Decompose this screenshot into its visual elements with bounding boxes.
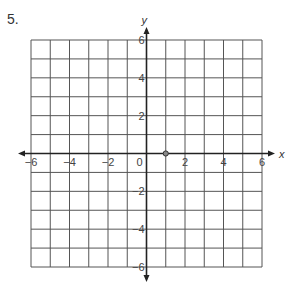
x-tick-label: 2 [182, 156, 188, 168]
y-axis-label: y [141, 14, 149, 26]
y-axis-arrow-up-icon [144, 27, 150, 34]
y-tick-label: 6 [138, 34, 144, 46]
x-axis-arrow-right-icon [268, 151, 275, 157]
coordinate-grid: xy−6−4−20246642−2−4−6 [0, 0, 297, 285]
x-tick-label: 6 [259, 156, 265, 168]
x-tick-label: −4 [63, 156, 76, 168]
y-tick-label: 4 [138, 72, 144, 84]
x-tick-label: 4 [220, 156, 226, 168]
y-tick-label: −4 [132, 223, 145, 235]
y-axis-arrow-down-icon [144, 275, 150, 282]
x-axis-label: x [278, 148, 285, 160]
y-tick-label: 2 [138, 110, 144, 122]
y-tick-label: −2 [132, 185, 145, 197]
x-tick-label: −6 [25, 156, 38, 168]
x-tick-label: 0 [136, 156, 142, 168]
data-point [163, 151, 168, 156]
y-tick-label: −6 [132, 261, 145, 273]
x-tick-label: −2 [102, 156, 115, 168]
